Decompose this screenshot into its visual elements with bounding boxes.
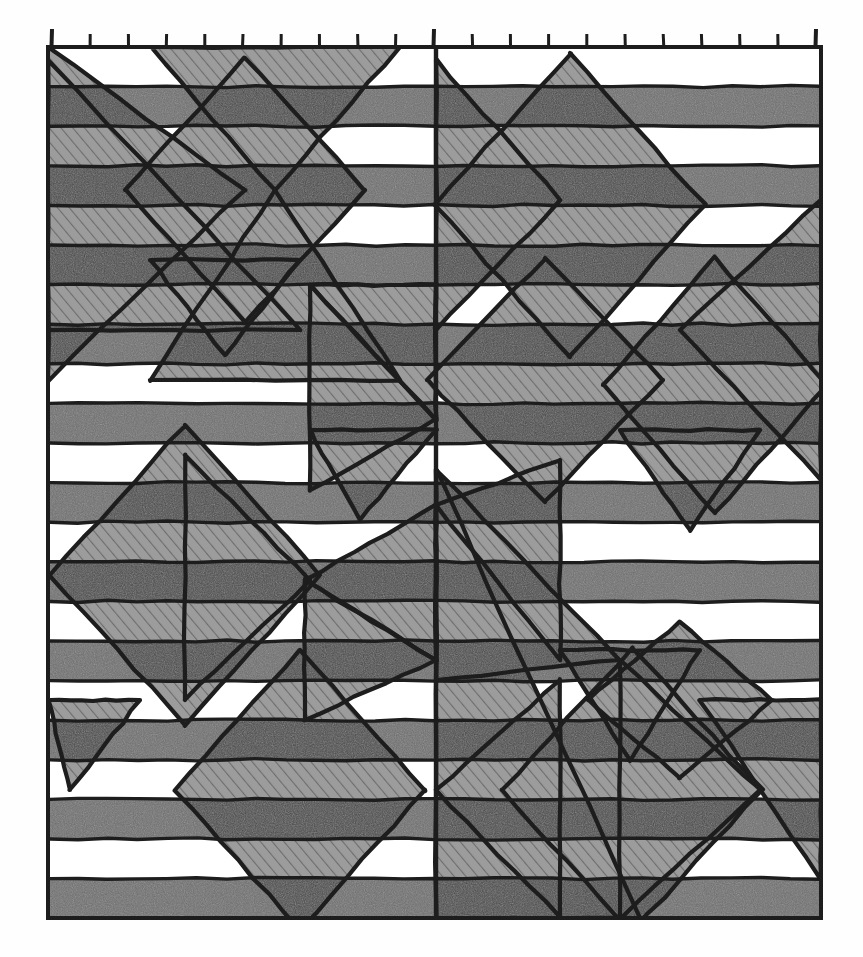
artwork-canvas: Striped Geometric Quilt Pattern Drawing — [0, 0, 863, 957]
pattern-drawing — [0, 0, 863, 957]
top-ruler-ticks — [52, 29, 817, 47]
